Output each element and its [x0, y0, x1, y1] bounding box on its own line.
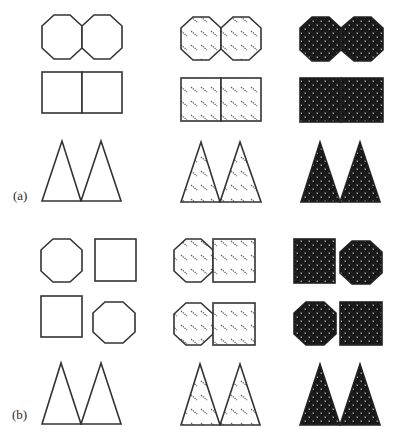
octagon-shape [41, 239, 82, 282]
square-shape [300, 78, 341, 122]
triangle-shape [42, 141, 81, 201]
square-shape [213, 239, 255, 282]
panel-label-a: (a) [13, 188, 27, 203]
panel-label-b: (b) [12, 407, 27, 422]
square-shape [340, 302, 382, 345]
triangle-shape [220, 142, 261, 202]
square-shape [41, 296, 82, 337]
panel-b: (b) [12, 239, 382, 425]
square-shape [95, 239, 136, 281]
octagon-shape [93, 302, 135, 343]
triangle-shape [181, 364, 220, 425]
square-shape [294, 239, 335, 283]
triangle-shape [300, 364, 340, 425]
square-shape [82, 72, 122, 113]
triangle-shape [340, 142, 380, 202]
octagon-shape [300, 17, 341, 61]
panel-a-outline-column [42, 15, 122, 201]
panel-a-hatched-column [181, 17, 261, 202]
triangle-shape [340, 364, 380, 425]
octagon-shape [174, 303, 213, 345]
triangle-shape [42, 363, 81, 424]
triangle-shape [181, 142, 220, 202]
octagon-shape [181, 17, 221, 60]
octagon-shape [340, 241, 382, 284]
panel-a-dotted-column [300, 17, 383, 202]
triangle-shape [81, 141, 121, 201]
octagon-shape [82, 15, 122, 59]
square-shape [341, 78, 383, 122]
figure-canvas: (a) (b) [0, 0, 396, 444]
panel-b-outline-column [41, 239, 136, 424]
octagon-shape [341, 17, 383, 61]
octagon-shape [221, 17, 261, 60]
triangle-shape [301, 142, 340, 202]
triangle-shape [81, 363, 121, 424]
square-shape [213, 303, 255, 345]
octagon-shape [294, 302, 336, 345]
square-shape [181, 78, 221, 121]
octagon-shape [42, 15, 82, 59]
square-shape [221, 78, 261, 121]
panel-a: (a) [13, 15, 383, 203]
panel-b-dotted-column [294, 239, 382, 425]
triangle-shape [220, 364, 260, 425]
panel-b-hatched-column [174, 239, 260, 425]
octagon-shape [174, 239, 213, 282]
square-shape [42, 72, 82, 113]
